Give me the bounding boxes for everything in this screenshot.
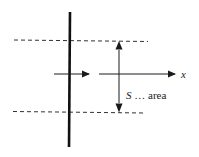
bottom-dashed-boundary (13, 112, 145, 114)
area-text: … area (132, 89, 167, 101)
wall-line (69, 12, 70, 147)
area-flux-diagram: x S … area (0, 0, 199, 157)
arrowhead-up-icon (116, 41, 123, 50)
x-axis-label: x (180, 68, 186, 80)
top-dashed-boundary (14, 40, 148, 42)
arrowhead-down-icon (116, 104, 123, 113)
area-label: S … area (126, 89, 166, 101)
